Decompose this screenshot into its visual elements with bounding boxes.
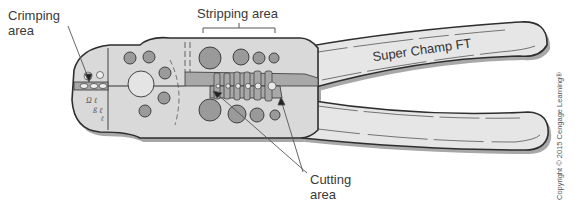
crimping-label-line2: area (8, 23, 60, 38)
crimping-area-label: Crimping area (8, 8, 60, 38)
cutting-label-line1: Cutting (310, 172, 351, 187)
copyright-notice: Copyright © 2015 Cengage Learning® (555, 72, 564, 200)
stripping-bracket (203, 23, 275, 33)
crimping-label-line1: Crimping (8, 8, 60, 23)
cutting-area-label: Cutting area (310, 172, 351, 202)
svg-text:ß ℓ: ß ℓ (92, 106, 103, 115)
tool-body (72, 38, 318, 138)
svg-text:Ω ℓ: Ω ℓ (86, 96, 98, 105)
cutting-label-line2: area (310, 187, 351, 202)
crimper-tool-illustration: Super Champ FT Ω ℓ ß ℓ ℓ (0, 0, 580, 212)
svg-text:ℓ: ℓ (100, 115, 104, 123)
stripping-area-label: Stripping area (197, 6, 278, 21)
stripping-jaw-upper (185, 72, 318, 86)
